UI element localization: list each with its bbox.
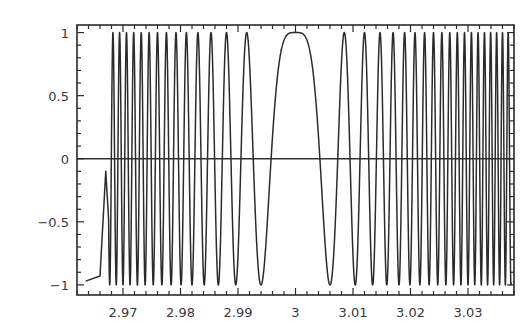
x-tick-label: 3.03 (454, 305, 483, 320)
x-axis-tick-labels: 2.972.982.9933.013.023.03 (109, 305, 483, 320)
chirp-line-chart: −1−0.500.51 2.972.982.9933.013.023.03 (0, 0, 527, 335)
y-tick-label: −1 (50, 278, 69, 293)
x-tick-label: 3.02 (396, 305, 425, 320)
x-tick-label: 3.01 (339, 305, 368, 320)
y-axis-tick-labels: −1−0.500.51 (37, 26, 69, 293)
y-tick-label: 1 (61, 26, 69, 41)
y-tick-label: 0.5 (48, 89, 69, 104)
y-tick-label: 0 (61, 152, 69, 167)
x-tick-label: 3 (291, 305, 299, 320)
x-tick-label: 2.97 (109, 305, 138, 320)
x-tick-label: 2.99 (224, 305, 253, 320)
y-tick-label: −0.5 (37, 215, 69, 230)
x-tick-label: 2.98 (166, 305, 195, 320)
